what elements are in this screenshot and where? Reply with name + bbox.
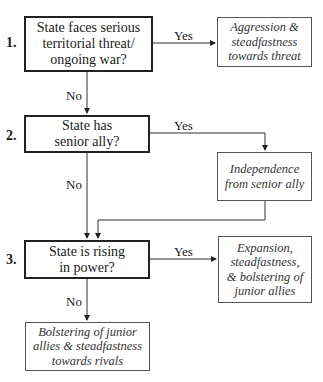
question-2-number: 2. — [6, 128, 17, 144]
q1-yes-label: Yes — [174, 28, 193, 44]
question-3-box: State is rising in power? — [24, 240, 150, 279]
q3-no-label: No — [66, 294, 82, 310]
outcome-expansion-text: Expansion, steadfastness, & bolstering o… — [225, 241, 305, 299]
q1-no-label: No — [66, 88, 82, 104]
question-3-text: State is rising in power? — [48, 244, 126, 276]
question-1-number: 1. — [6, 35, 17, 51]
outcome-aggression-box: Aggression & steadfastness towards threa… — [217, 17, 312, 67]
outcome-independence-box: Independence from senior ally — [217, 152, 312, 201]
outcome-bolstering-box: Bolstering of junior allies & steadfastn… — [25, 322, 150, 371]
q2-no-label: No — [66, 177, 82, 193]
outcome-bolstering-text: Bolstering of junior allies & steadfastn… — [32, 325, 143, 369]
outcome-aggression-text: Aggression & steadfastness towards threa… — [222, 20, 307, 64]
question-2-text: State has senior ally? — [46, 118, 128, 150]
q2-yes-label: Yes — [174, 118, 193, 134]
outcome-independence-text: Independence from senior ally — [222, 162, 307, 191]
question-3-number: 3. — [6, 252, 17, 268]
question-1-text: State faces serious territorial threat/ … — [32, 20, 145, 68]
q3-yes-label: Yes — [174, 244, 193, 260]
question-2-box: State has senior ally? — [24, 115, 150, 153]
outcome-expansion-box: Expansion, steadfastness, & bolstering o… — [218, 236, 312, 303]
question-1-box: State faces serious territorial threat/ … — [24, 16, 153, 72]
